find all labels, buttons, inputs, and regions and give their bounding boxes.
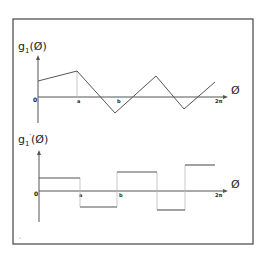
bottom-steps	[39, 165, 215, 210]
top-tick-a: a	[77, 98, 80, 104]
bottom-ylabel: g1′(Ø)	[18, 133, 48, 148]
top-xlabel: Ø	[231, 84, 240, 97]
top-tick-b: b	[117, 98, 121, 104]
bottom-tick-2pi: 2π	[215, 192, 222, 198]
bottom-plot: g1′(Ø) Ø 0 a b 2π	[18, 133, 240, 222]
top-curve	[38, 71, 215, 113]
top-x-arrow-icon	[223, 95, 228, 99]
top-y-arrow-icon	[36, 55, 40, 60]
bottom-tick-b: b	[119, 192, 123, 198]
bottom-y-arrow-icon	[37, 150, 41, 155]
top-origin-label: 0	[33, 96, 37, 103]
bottom-tick-a: a	[79, 192, 82, 198]
top-ylabel: g1(Ø)	[18, 40, 47, 55]
top-plot: g1(Ø) Ø 0 a b 2π	[18, 40, 240, 123]
bottom-origin-label: 0	[34, 190, 38, 197]
diagram-figure: g1(Ø) Ø 0 a b 2π g1′(Ø) Ø 0 a b 2π	[0, 0, 263, 257]
speck-mark	[19, 237, 20, 238]
bottom-xlabel: Ø	[231, 178, 240, 191]
bottom-x-arrow-icon	[223, 189, 228, 193]
diagram-svg: g1(Ø) Ø 0 a b 2π g1′(Ø) Ø 0 a b 2π	[0, 0, 263, 257]
frame-border	[13, 19, 253, 244]
top-tick-2pi: 2π	[215, 98, 222, 104]
